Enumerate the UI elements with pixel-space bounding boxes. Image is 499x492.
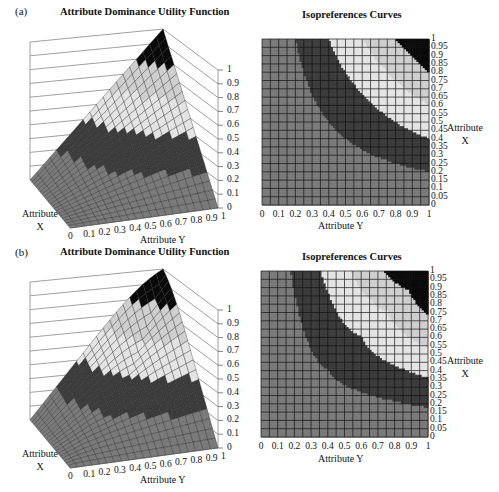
surface-y-tick: 0.8 (190, 456, 202, 466)
contour-horizontal-tick: 0.3 (305, 442, 317, 452)
surface-y-tick: 0.7 (175, 218, 187, 228)
contour-vertical-tick: 0.1 (430, 415, 442, 425)
surface-z-tick: 0.7 (227, 346, 239, 356)
contour-vertical-tick: 0.05 (430, 424, 447, 434)
contour-vertical-tick: 0.55 (430, 341, 447, 351)
surface-z-tick: 0.4 (227, 388, 239, 398)
contour-horizontal-tick: 0.9 (406, 210, 418, 220)
contour-vertical-tick: 0.45 (431, 125, 448, 135)
contour-horizontal-tick: 0 (260, 210, 265, 220)
surface-y-tick: 0.3 (114, 226, 126, 236)
surface-z-tick: 0.2 (227, 175, 239, 185)
surface-y-tick: 0.4 (129, 464, 141, 474)
surface-y-tick: 0.4 (129, 224, 141, 234)
contour-horizontal-tick: 0.6 (356, 210, 368, 220)
surface-y-tick: 0.9 (206, 454, 218, 464)
surface-y-tick: 0.2 (99, 468, 111, 478)
contour-vertical-tick: 0.85 (431, 59, 448, 69)
contour-vertical-tick: 0 (430, 432, 435, 442)
contour-grid (261, 271, 428, 437)
contour-vertical-tick: 0.8 (430, 299, 442, 309)
contour-vertical-tick: 0.3 (431, 150, 443, 160)
contour-vertical-tick: 0.8 (431, 67, 443, 77)
surface-y-tick: 1 (221, 212, 226, 222)
surface-y-tick: 0.5 (145, 222, 157, 232)
surface-z-tick: 0.3 (227, 402, 239, 412)
panel-b-contour-y-label: Attribute Y (318, 453, 363, 466)
surface-z-tick: 1 (227, 305, 232, 315)
surface-z-tick: 0.1 (227, 189, 239, 199)
contour-vertical-tick: 0.15 (431, 175, 448, 185)
contour-vertical-tick: 0.55 (431, 109, 448, 119)
contour-horizontal-tick: 0.2 (289, 210, 301, 220)
contour-vertical-tick: 0.65 (430, 324, 447, 334)
contour-horizontal-tick: 0.7 (373, 210, 385, 220)
contour-vertical-tick: 0.25 (431, 159, 448, 169)
contour-vertical-tick: 0.7 (430, 316, 442, 326)
contour-horizontal-tick: 1 (426, 442, 431, 452)
contour-vertical-tick: 0.4 (430, 366, 442, 376)
surface-y-tick: 0.9 (206, 214, 218, 224)
contour-horizontal-tick: 1 (427, 210, 432, 220)
panel-b-surface-y-label: Attribute Y (140, 474, 185, 487)
contour-horizontal-tick: 0.1 (272, 442, 284, 452)
contour-horizontal-tick: 0.9 (405, 442, 417, 452)
contour-vertical-tick: 0.9 (431, 51, 443, 61)
surface-z-tick: 0.8 (227, 93, 239, 103)
panel-b-surface-x-label: AttributeX (20, 448, 60, 473)
surface-z-tick: 0.8 (227, 333, 239, 343)
surface-z-tick: 1 (227, 65, 232, 75)
surface-z-tick: 0.5 (227, 134, 239, 144)
contour-horizontal-tick: 0.1 (273, 210, 285, 220)
contour-vertical-tick: 0.5 (431, 117, 443, 127)
surface-y-tick: 0.5 (145, 462, 157, 472)
surface-y-tick: 0.1 (83, 470, 95, 480)
contour-vertical-tick: 0 (431, 200, 436, 210)
surface-z-tick: 0.9 (227, 79, 239, 89)
contour-vertical-tick: 0.65 (431, 92, 448, 102)
contour-horizontal-tick: 0.4 (322, 442, 334, 452)
panel-b-contour-plot (0, 0, 499, 492)
contour-horizontal-tick: 0 (259, 442, 264, 452)
surface-y-tick: 0.6 (160, 460, 172, 470)
contour-vertical-tick: 0.5 (430, 349, 442, 359)
surface-y-tick: 0 (68, 232, 73, 242)
surface-z-tick: 0.2 (227, 415, 239, 425)
contour-vertical-tick: 1 (430, 266, 435, 276)
contour-vertical-tick: 0.75 (430, 308, 447, 318)
contour-vertical-tick: 0.35 (430, 374, 447, 384)
surface-z-tick: 0.1 (227, 429, 239, 439)
contour-horizontal-tick: 0.8 (389, 442, 401, 452)
contour-vertical-tick: 0.35 (431, 142, 448, 152)
surface-y-tick: 0 (68, 472, 73, 482)
contour-vertical-tick: 0.2 (430, 399, 442, 409)
contour-vertical-tick: 0.95 (430, 274, 447, 284)
contour-horizontal-tick: 0.4 (323, 210, 335, 220)
surface-z-tick: 0.7 (227, 106, 239, 116)
contour-vertical-tick: 0.75 (431, 76, 448, 86)
contour-horizontal-tick: 0.2 (288, 442, 300, 452)
surface-z-tick: 0.6 (227, 120, 239, 130)
surface-y-tick: 0.6 (160, 220, 172, 230)
surface-y-tick: 0.7 (175, 458, 187, 468)
contour-horizontal-tick: 0.3 (306, 210, 318, 220)
contour-horizontal-tick: 0.8 (390, 210, 402, 220)
contour-vertical-tick: 0.6 (430, 332, 442, 342)
surface-z-tick: 0.3 (227, 162, 239, 172)
contour-horizontal-tick: 0.5 (340, 210, 352, 220)
contour-vertical-tick: 1 (431, 34, 436, 44)
contour-horizontal-tick: 0.7 (372, 442, 384, 452)
surface-y-tick: 0.3 (114, 466, 126, 476)
contour-vertical-tick: 0.4 (431, 134, 443, 144)
contour-vertical-tick: 0.9 (430, 283, 442, 293)
contour-vertical-tick: 0.1 (431, 183, 443, 193)
contour-vertical-tick: 0.3 (430, 382, 442, 392)
surface-z-tick: 0.9 (227, 319, 239, 329)
surface-y-tick: 0.8 (190, 216, 202, 226)
surface-z-tick: 0.6 (227, 360, 239, 370)
contour-vertical-tick: 0.95 (431, 42, 448, 52)
panel-b-contour-x-label: AttributeX (445, 355, 485, 380)
surface-y-tick: 0.2 (99, 228, 111, 238)
contour-vertical-tick: 0.15 (430, 407, 447, 417)
contour-vertical-tick: 0.6 (431, 100, 443, 110)
